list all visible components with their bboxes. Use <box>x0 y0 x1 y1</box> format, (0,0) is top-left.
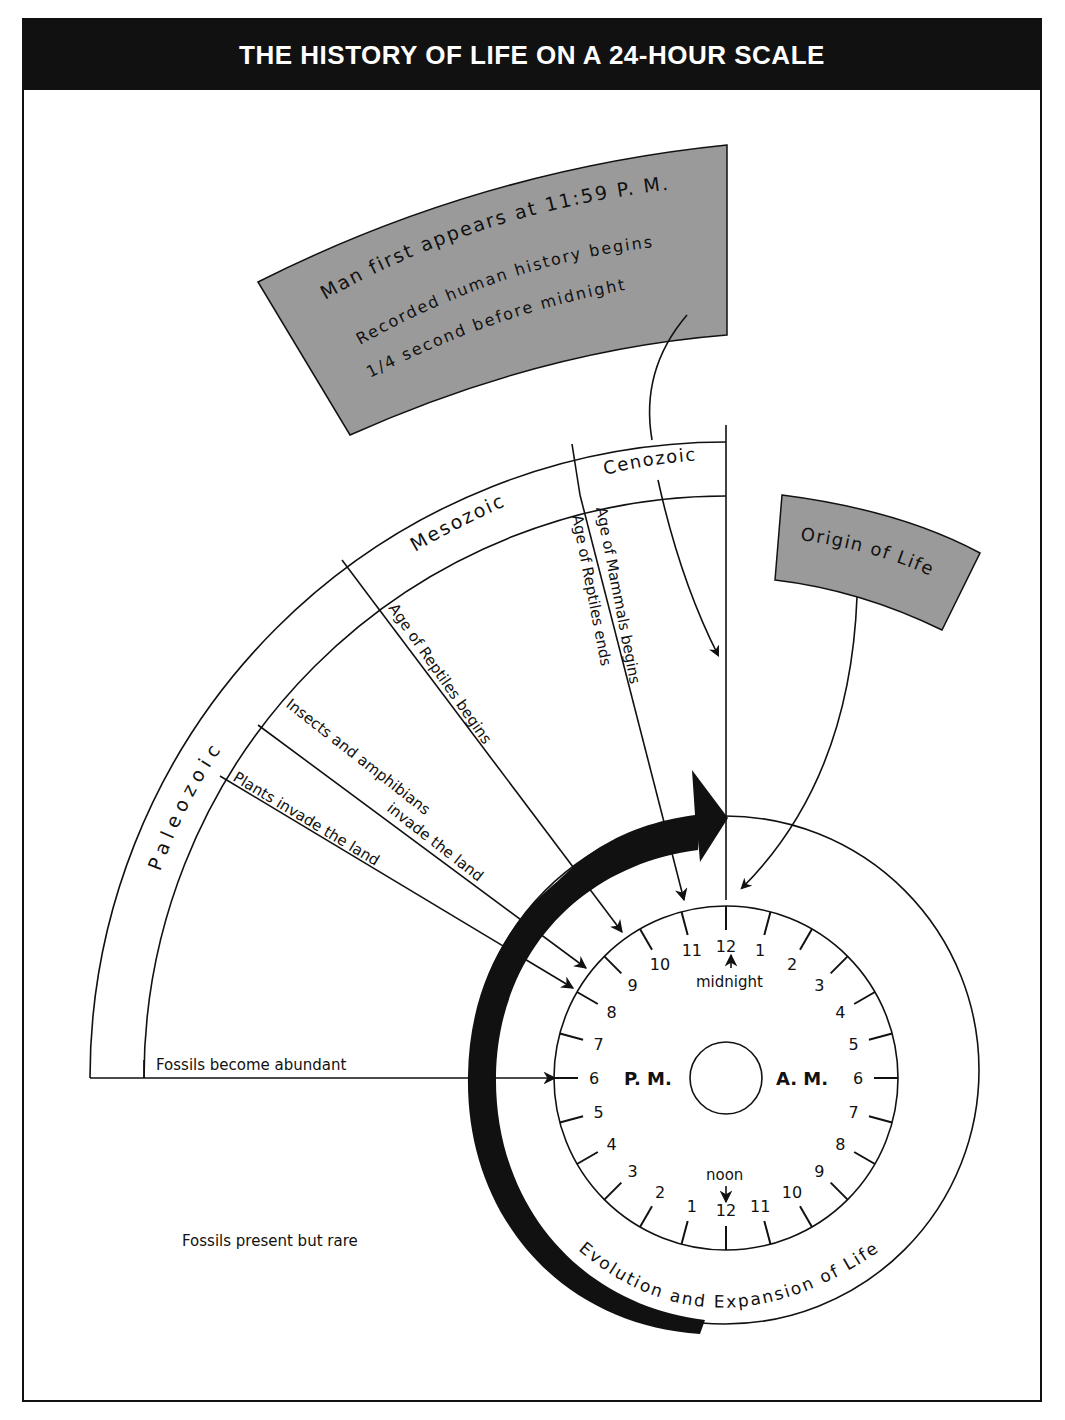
clock-tick <box>869 1116 892 1122</box>
clock-number: 3 <box>814 976 824 995</box>
clock-tick <box>577 1152 598 1164</box>
clock-number: 10 <box>650 955 670 974</box>
clock-tick <box>800 929 812 950</box>
history-of-life-diagram: Mesozoic Cenozoic Paleozoic Age of Mamma… <box>0 0 1065 1420</box>
era-label-cenozoic: Cenozoic <box>601 444 698 479</box>
noon-label: noon <box>706 1166 743 1184</box>
clock-number: 4 <box>607 1135 617 1154</box>
am-label: A. M. <box>776 1068 828 1089</box>
clock-tick <box>831 1183 848 1200</box>
clock-tick <box>854 992 875 1004</box>
clock-dial: 121234567891011121234567891011 P. M. A. … <box>554 906 898 1250</box>
clock-tick <box>604 956 621 973</box>
clock-tick <box>869 1033 892 1039</box>
paleo-meso-divider <box>342 560 372 600</box>
event-plants: Plants invade the land <box>230 768 383 870</box>
event-fossils-rare: Fossils present but rare <box>182 1232 358 1250</box>
man-arrow <box>658 480 718 655</box>
midnight-label: midnight <box>696 973 763 991</box>
clock-number: 1 <box>687 1197 697 1216</box>
clock-number: 9 <box>628 976 638 995</box>
clock-tick <box>560 1116 583 1122</box>
clock-number: 6 <box>853 1069 863 1088</box>
clock-number: 11 <box>682 941 702 960</box>
clock-number: 10 <box>782 1183 802 1202</box>
clock-tick <box>577 992 598 1004</box>
clock-tick <box>854 1152 875 1164</box>
clock-number: 11 <box>750 1197 770 1216</box>
clock-tick <box>640 929 652 950</box>
event-insects-line2: invade the land <box>384 799 487 885</box>
clock-tick <box>560 1033 583 1039</box>
clock-number: 5 <box>848 1035 858 1054</box>
man-callout: Man first appears at 11:59 P. M. Recorde… <box>258 145 727 435</box>
evolution-arrow-head <box>515 770 728 940</box>
clock-tick <box>640 1206 652 1227</box>
clock-number: 12 <box>716 937 736 956</box>
origin-callout: Origin of Life <box>775 495 980 630</box>
clock-tick <box>681 1221 687 1244</box>
clock-tick <box>764 912 770 935</box>
clock-number: 5 <box>593 1103 603 1122</box>
clock-hub <box>690 1042 762 1114</box>
clock-number: 7 <box>848 1103 858 1122</box>
clock-number: 2 <box>787 955 797 974</box>
era-label-paleozoic: Paleozoic <box>143 735 227 873</box>
clock-number: 12 <box>716 1201 736 1220</box>
clock-number: 2 <box>655 1183 665 1202</box>
clock-number: 6 <box>589 1069 599 1088</box>
meso-ceno-divider <box>572 444 580 495</box>
clock-number: 4 <box>835 1003 845 1022</box>
clock-number: 9 <box>814 1162 824 1181</box>
clock-number: 7 <box>593 1035 603 1054</box>
clock-tick <box>764 1221 770 1244</box>
event-reptiles-begin: Age of Reptiles begins <box>385 600 496 748</box>
origin-arrow <box>742 597 857 888</box>
clock-tick <box>800 1206 812 1227</box>
clock-number: 8 <box>835 1135 845 1154</box>
clock-number: 1 <box>755 941 765 960</box>
clock-tick <box>604 1183 621 1200</box>
clock-tick <box>831 956 848 973</box>
clock-tick <box>681 912 687 935</box>
pm-label: P. M. <box>624 1068 672 1089</box>
event-fossils-abundant: Fossils become abundant <box>156 1056 347 1074</box>
clock-number: 3 <box>628 1162 638 1181</box>
clock-number: 8 <box>607 1003 617 1022</box>
